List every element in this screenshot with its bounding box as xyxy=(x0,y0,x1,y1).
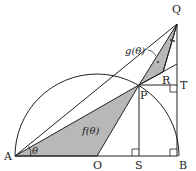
label-B: B xyxy=(179,159,187,171)
right-angle-B xyxy=(170,149,177,156)
label-T: T xyxy=(180,79,188,92)
label-O: O xyxy=(93,159,102,171)
angle-mark-dot xyxy=(157,61,159,63)
label-theta: θ xyxy=(32,145,38,156)
label-S: S xyxy=(135,159,143,171)
label-R: R xyxy=(162,74,171,87)
g-label-pointer xyxy=(148,50,156,56)
angle-mark-dot xyxy=(170,39,172,41)
right-angle-S xyxy=(132,149,139,156)
angle-mark-dot xyxy=(173,40,175,42)
label-f-theta: f(θ) xyxy=(81,125,100,136)
label-A: A xyxy=(3,150,13,163)
label-Q: Q xyxy=(172,3,181,16)
label-g-theta: g(θ) xyxy=(125,45,145,56)
label-P: P xyxy=(140,89,148,102)
geometry-diagram: A O S B P T R Q θ f(θ) g(θ) xyxy=(0,0,196,171)
right-angle-T xyxy=(170,85,177,92)
